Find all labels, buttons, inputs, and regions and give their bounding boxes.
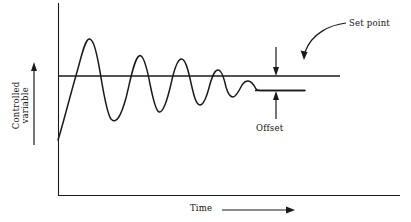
y-axis-arrow-head: [31, 62, 37, 71]
x-axis-arrow-head: [286, 207, 295, 214]
offset-lower-arrow-head: [273, 91, 279, 100]
y-axis-label-line-2: variable: [21, 70, 30, 140]
control-response-figure: Set point Offset Time Controlled variabl…: [0, 0, 411, 222]
set-point-label: Set point: [349, 18, 390, 28]
offset-upper-arrow-head: [273, 67, 279, 76]
set-point-leader-arrow-head: [301, 51, 308, 60]
plot-canvas: [0, 0, 411, 222]
x-axis-label: Time: [190, 203, 212, 213]
set-point-leader-line: [305, 23, 346, 52]
y-axis-label: Controlled variable: [12, 70, 31, 140]
offset-label: Offset: [256, 123, 283, 133]
